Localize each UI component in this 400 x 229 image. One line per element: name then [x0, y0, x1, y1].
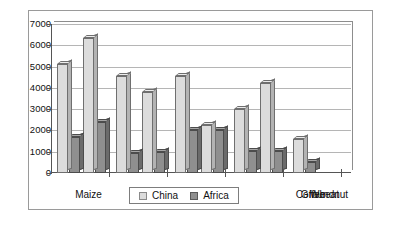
bar-front-face — [201, 125, 212, 173]
bar-china — [83, 38, 94, 173]
bar-china — [234, 109, 245, 173]
bar-front-face — [83, 38, 94, 173]
y-axis-tick — [47, 130, 52, 131]
bar-side-face — [304, 134, 308, 170]
legend-swatch-africa-icon — [190, 192, 198, 200]
y-axis-tick — [47, 109, 52, 110]
x-axis-category-label: Maize — [49, 190, 129, 200]
x-axis-group-separator — [225, 169, 226, 177]
bar-china — [57, 64, 68, 173]
legend-swatch-china-icon — [139, 192, 147, 200]
y-axis-tick — [47, 67, 52, 68]
chart-legend: China Africa — [129, 187, 239, 204]
bar-side-face — [106, 117, 110, 170]
x-axis-group-separator — [167, 169, 168, 177]
x-axis-group-separator-rule — [337, 172, 346, 173]
bar-china — [116, 76, 127, 173]
plot-area: MaizeSorghumWheatGroundnutCoffee — [51, 24, 351, 173]
bar-front-face — [260, 83, 271, 173]
plot-top-rule — [54, 21, 353, 22]
bar-side-face — [127, 72, 131, 170]
gridline — [51, 24, 351, 25]
y-axis-tick — [47, 45, 52, 46]
bar-front-face — [293, 139, 304, 173]
y-axis-tick — [47, 88, 52, 89]
legend-item-africa: Africa — [190, 191, 229, 201]
x-axis-group-separator — [109, 169, 110, 177]
chart-frame: 01000200030004000500060007000 MaizeSorgh… — [28, 10, 373, 210]
bar-china — [142, 92, 153, 173]
legend-label-china: China — [152, 191, 178, 201]
bar-front-face — [234, 109, 245, 173]
y-axis-tick — [47, 152, 52, 153]
bar-china — [293, 139, 304, 173]
legend-item-china: China — [139, 191, 178, 201]
bar-side-face — [245, 105, 249, 170]
y-axis-labels: 01000200030004000500060007000 — [5, 24, 51, 173]
bar-front-face — [116, 76, 127, 173]
legend-label-africa: Africa — [203, 191, 229, 201]
y-axis-tick — [47, 24, 52, 25]
x-axis-category-label: Coffee — [271, 190, 351, 200]
bar-china — [201, 125, 212, 173]
bar-china — [260, 83, 271, 173]
bar-front-face — [142, 92, 153, 173]
bar-side-face — [94, 33, 98, 170]
x-axis-group-separator — [341, 169, 342, 177]
x-axis-group-separator-rule — [105, 172, 114, 173]
plot-right-rule — [352, 21, 353, 170]
bar-side-face — [224, 126, 228, 170]
bar-side-face — [271, 78, 275, 170]
bar-side-face — [68, 60, 72, 170]
bar-side-face — [80, 132, 84, 170]
bar-front-face — [57, 64, 68, 173]
bar-side-face — [153, 88, 157, 170]
bar-front-face — [175, 76, 186, 173]
y-axis-tick — [47, 173, 52, 174]
bar-side-face — [186, 72, 190, 170]
bar-side-face — [198, 126, 202, 170]
bar-side-face — [212, 121, 216, 170]
bar-china — [175, 76, 186, 173]
